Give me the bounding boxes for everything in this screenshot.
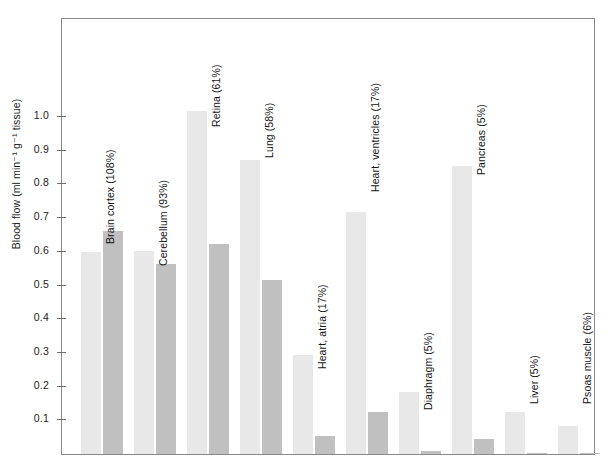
bar — [81, 252, 101, 454]
bar — [505, 412, 525, 454]
category-label: Psoas muscle (6%) — [581, 312, 593, 404]
category-label: Liver (5%) — [528, 355, 540, 404]
bar — [103, 231, 123, 454]
bar — [240, 160, 260, 454]
y-axis-tick-label: 0.9 — [9, 143, 49, 155]
plot-area-frame — [61, 18, 595, 455]
bar — [368, 412, 388, 454]
y-axis-title: Blood flow (ml min⁻¹ g⁻¹ tissue) — [10, 44, 22, 304]
category-label: Heart, ventricles (17%) — [369, 83, 381, 192]
y-axis-tick-mark — [57, 251, 66, 252]
category-label: Lung (58%) — [263, 103, 275, 158]
y-axis-tick-mark — [57, 183, 66, 184]
y-axis-tick-mark — [57, 419, 66, 420]
bar — [421, 451, 441, 454]
blood-flow-bar-chart: Blood flow (ml min⁻¹ g⁻¹ tissue) 0.10.20… — [0, 0, 608, 469]
category-label: Cerebellum (93%) — [157, 180, 169, 266]
bar — [474, 439, 494, 454]
category-label: Heart, atria (17%) — [316, 284, 328, 369]
bar — [452, 166, 472, 454]
category-label: Diaphragm (5%) — [422, 332, 434, 410]
bar — [315, 436, 335, 454]
y-axis-tick-mark — [57, 352, 66, 353]
y-axis-tick-label: 0.8 — [9, 176, 49, 188]
y-axis-tick-label: 0.5 — [9, 278, 49, 290]
bar — [293, 355, 313, 454]
category-label: Brain cortex (108%) — [104, 149, 116, 244]
bar — [134, 251, 154, 454]
bar — [558, 426, 578, 454]
y-axis-tick-mark — [57, 285, 66, 286]
bar — [262, 280, 282, 454]
bars-container — [62, 19, 594, 454]
y-axis-tick-mark — [57, 318, 66, 319]
y-axis-tick-label: 0.7 — [9, 210, 49, 222]
y-axis-tick-label: 1.0 — [9, 109, 49, 121]
y-axis-tick-label: 0.6 — [9, 244, 49, 256]
y-axis-tick-label: 0.3 — [9, 345, 49, 357]
y-axis-tick-label: 0.4 — [9, 311, 49, 323]
bar — [187, 111, 207, 454]
y-axis-tick-label: 0.2 — [9, 379, 49, 391]
y-axis-tick-mark — [57, 217, 66, 218]
bar — [156, 264, 176, 454]
bar — [346, 212, 366, 454]
category-label: Retina (61%) — [210, 65, 222, 127]
y-axis-tick-mark — [57, 116, 66, 117]
y-axis-tick-mark — [57, 150, 66, 151]
bar — [580, 453, 600, 454]
bar — [399, 392, 419, 454]
y-axis-tick-label: 0.1 — [9, 412, 49, 424]
y-axis-tick-mark — [57, 386, 66, 387]
category-label: Pancreas (5%) — [475, 104, 487, 175]
bar — [527, 453, 547, 454]
bar — [209, 244, 229, 454]
